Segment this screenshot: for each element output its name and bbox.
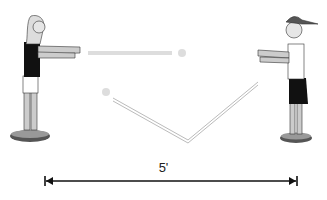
distance-label: 5' [0,160,327,175]
chest-pass-trail [88,49,186,57]
bounce-pass-trail [102,82,258,143]
distance-arrow [45,176,297,186]
left-player-figure [10,15,80,142]
ball-icon [178,49,186,57]
right-player-figure [258,16,318,143]
ball-icon [102,88,110,96]
